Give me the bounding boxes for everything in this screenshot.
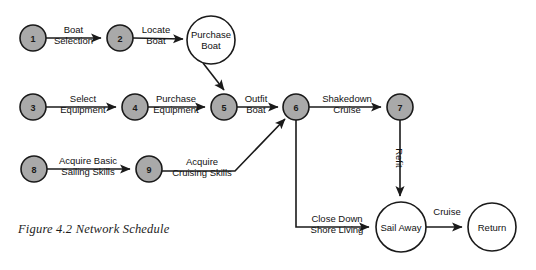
node-activity-return[interactable]: Return [468,203,516,251]
edge-purchase-equipment: Purchase Equipment [148,93,205,115]
figure-caption: Figure 4.2 Network Schedule [18,222,169,237]
edge-shakedown-cruise: Shakedown Cruise [309,93,381,115]
edge-boat-selection: Boat Selection [46,24,101,46]
node-label-line2: Boat [201,40,221,51]
node-activity-purchase-boat[interactable]: Purchase Boat [187,16,235,64]
edge-close-down-shore-living: Close Down Shore Living [296,120,369,235]
edge-cruise: Cruise [426,206,462,227]
edge-line [203,63,224,90]
edge-label-line2: Cruising Skills [172,167,232,178]
edge-label-line1: Purchase [156,93,196,104]
edge-label-line2: Cruise [333,104,360,115]
edge-line [296,120,369,227]
node-label: 2 [117,34,122,44]
edge-label-line2: Boat [246,104,266,115]
node-label-line1: Return [478,222,507,233]
node-label-line1: Sail Away [380,222,421,233]
edge-label-line1: Outfit [245,93,268,104]
node-label: 5 [221,103,226,113]
node-milestone-9[interactable]: 9 [136,156,162,182]
node-label: 8 [31,165,36,175]
node-activity-sail-away[interactable]: Sail Away [376,202,426,252]
edge-label-line2: Selection [54,35,93,46]
edge-acquire-basic-sailing-skills: Acquire Basic Sailing Skills [47,155,130,177]
node-label: 6 [293,103,298,113]
edge-label-line1: Cruise [433,206,460,217]
edge-label-line2: Equipment [60,104,106,115]
node-label: 3 [30,103,35,113]
node-milestone-2[interactable]: 2 [107,25,133,51]
figure-network-schedule: Boat Selection Locate Boat Select Equipm… [0,0,536,270]
node-label: 4 [132,103,137,113]
node-label: 7 [397,103,402,113]
edge-label-line1: Locate [142,24,171,35]
node-label: 9 [146,165,151,175]
node-label: 1 [30,34,35,44]
edge-refit: Refit [394,120,405,196]
node-label-line1: Purchase [191,29,231,40]
node-milestone-1[interactable]: 1 [20,25,46,51]
edge-label-line1: Acquire [186,156,218,167]
node-milestone-4[interactable]: 4 [122,94,148,120]
edge-acquire-cruising-skills: Acquire Cruising Skills [162,119,285,178]
edge-label-line2: Sailing Skills [61,166,115,177]
node-milestone-3[interactable]: 3 [20,94,46,120]
edge-label-line1: Select [70,93,97,104]
edge-purchase-boat-to-outfit [203,63,224,90]
node-milestone-7[interactable]: 7 [387,94,413,120]
node-milestone-8[interactable]: 8 [21,156,47,182]
edge-label-line1: Acquire Basic [59,155,117,166]
edge-line [162,119,285,171]
edge-label-line1: Shakedown [322,93,372,104]
node-milestone-6[interactable]: 6 [283,94,309,120]
edge-label-line1: Refit [394,148,405,168]
edge-select-equipment: Select Equipment [46,93,116,115]
edge-label-line2: Boat [146,35,166,46]
edge-outfit-boat: Outfit Boat [237,93,278,115]
edge-label-line2: Equipment [153,104,199,115]
edge-label-line1: Close Down [311,213,362,224]
node-milestone-5[interactable]: 5 [211,94,237,120]
edge-locate-boat: Locate Boat [133,24,183,46]
edge-label-line1: Boat [64,24,84,35]
edge-label-line2: Shore Living [311,224,364,235]
